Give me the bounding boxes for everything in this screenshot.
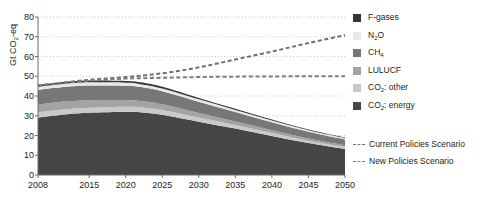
legend-item-label: CO2: other [368,82,408,94]
area-series [38,112,345,175]
legend-item-label: CO2: energy [368,100,415,112]
legend-dashed-line-icon [353,141,365,149]
legend-swatch-icon [353,84,361,92]
legend-areas: F-gasesN2OCH4LULUCFCO2: otherCO2: energy [353,12,481,117]
legend-swatch-icon [353,67,361,75]
legend-swatch-icon [353,32,361,40]
legend-item[interactable]: F-gases [353,12,481,26]
chart-figure: Gt CO2-eq 01020304050607080 200820152020… [0,0,483,207]
legend-line-label: Current Policies Scenario [369,139,465,150]
legend-item-label: F-gases [368,12,399,23]
legend-line-item[interactable]: New Policies Scenario [353,156,483,170]
legend-line-item[interactable]: Current Policies Scenario [353,139,483,153]
legend-lines: Current Policies ScenarioNew Policies Sc… [353,139,483,173]
legend-swatch-icon [353,102,361,110]
legend-item[interactable]: N2O [353,30,481,44]
legend-item[interactable]: CH4 [353,47,481,61]
legend-item[interactable]: CO2: other [353,82,481,96]
legend-swatch-icon [353,14,361,22]
legend-line-label: New Policies Scenario [369,156,454,167]
legend-item-label: LULUCF [368,65,401,76]
legend-item-label: N2O [368,30,384,42]
legend-item-label: CH4 [368,47,384,59]
legend-dashed-line-icon [353,158,365,166]
legend-item[interactable]: CO2: energy [353,100,481,114]
legend-swatch-icon [353,49,361,57]
legend-item[interactable]: LULUCF [353,65,481,79]
